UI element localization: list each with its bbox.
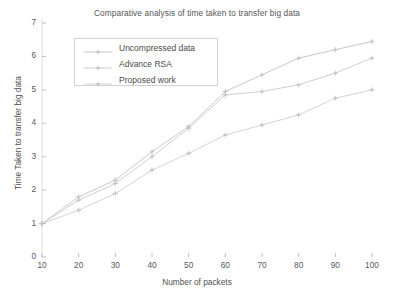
data-point-marker [259, 89, 264, 94]
data-point-marker [333, 47, 338, 52]
data-point-marker [369, 39, 374, 44]
data-point-marker [296, 112, 301, 117]
data-point-marker [296, 82, 301, 87]
x-tick-label: 70 [249, 261, 275, 270]
legend-item[interactable]: Proposed work [75, 73, 217, 87]
x-tick-label: 40 [139, 261, 165, 270]
data-point-marker [296, 56, 301, 61]
y-tick-label: 0 [20, 252, 36, 261]
legend-swatch-proposed-work [83, 75, 113, 85]
data-point-marker [223, 132, 228, 137]
chart-legend: Uncompressed data Advance RSA Proposed w… [74, 38, 218, 86]
data-point-marker [259, 72, 264, 77]
legend-item[interactable]: Advance RSA [75, 57, 217, 71]
x-tick-label: 80 [286, 261, 312, 270]
x-tick-label: 60 [212, 261, 238, 270]
legend-label: Proposed work [119, 75, 176, 85]
y-tick-label: 7 [20, 18, 36, 27]
data-point-marker [76, 208, 81, 213]
data-point-marker [369, 56, 374, 61]
data-point-marker [333, 71, 338, 76]
data-point-marker [186, 151, 191, 156]
y-tick-label: 6 [20, 51, 36, 60]
x-tick-label: 30 [102, 261, 128, 270]
y-tick-label: 1 [20, 219, 36, 228]
y-tick-label: 5 [20, 85, 36, 94]
chart-figure: Comparative analysis of time taken to tr… [0, 0, 394, 299]
x-tick-label: 10 [29, 261, 55, 270]
y-tick-label: 3 [20, 152, 36, 161]
series-line-proposed-work [42, 90, 372, 224]
x-tick-label: 90 [322, 261, 348, 270]
y-tick-label: 4 [20, 118, 36, 127]
x-tick-label: 20 [66, 261, 92, 270]
data-point-marker [149, 167, 154, 172]
x-tick-label: 50 [176, 261, 202, 270]
data-point-marker [113, 191, 118, 196]
legend-label: Advance RSA [119, 59, 172, 69]
legend-swatch-advance-rsa [83, 59, 113, 69]
legend-item[interactable]: Uncompressed data [75, 41, 217, 55]
legend-label: Uncompressed data [119, 43, 195, 53]
legend-swatch-uncompressed-data [83, 43, 113, 53]
data-point-marker [333, 96, 338, 101]
y-tick-label: 2 [20, 185, 36, 194]
data-point-marker [369, 87, 374, 92]
data-point-marker [259, 122, 264, 127]
x-tick-label: 100 [359, 261, 385, 270]
